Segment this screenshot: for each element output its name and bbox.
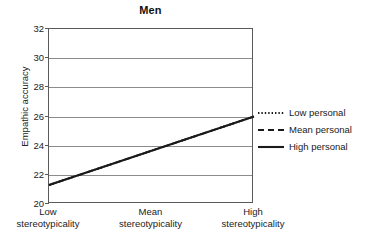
chart-figure: Men Empathic accuracy 20222426283032 Low… bbox=[0, 0, 370, 247]
x-axis-tick-label: Lowstereotypicality bbox=[3, 206, 93, 229]
x-axis-tick-labels: LowstereotypicalityMeanstereotypicalityH… bbox=[48, 206, 253, 242]
x-axis-tick-label-line1: Low bbox=[3, 206, 93, 218]
legend-item[interactable]: Mean personal bbox=[258, 121, 370, 138]
chart-title: Men bbox=[48, 4, 253, 16]
legend-swatch-solid-icon bbox=[258, 142, 284, 152]
legend-swatch-dashed-icon bbox=[258, 125, 284, 135]
legend-item[interactable]: High personal bbox=[258, 138, 370, 155]
y-axis-title: Empathic accuracy bbox=[19, 27, 30, 187]
legend-swatch-dotted-icon bbox=[258, 108, 284, 118]
x-axis-tick-label-line2: stereotypicality bbox=[3, 218, 93, 230]
y-axis-tick-label: 28 bbox=[4, 81, 44, 92]
x-axis-tick-label-line1: High bbox=[208, 206, 298, 218]
y-axis-tick-label: 22 bbox=[4, 168, 44, 179]
series-line bbox=[49, 117, 254, 186]
legend-label: High personal bbox=[289, 141, 348, 152]
y-axis-tick-label: 32 bbox=[4, 23, 44, 34]
y-axis-tick-label: 26 bbox=[4, 110, 44, 121]
legend-label: Mean personal bbox=[289, 124, 352, 135]
data-series-group bbox=[49, 29, 254, 204]
x-axis-tick-label-line2: stereotypicality bbox=[106, 218, 196, 230]
chart-legend: Low personalMean personalHigh personal bbox=[258, 104, 370, 155]
y-axis-tick-label: 24 bbox=[4, 139, 44, 150]
x-axis-tick-label: Meanstereotypicality bbox=[106, 206, 196, 229]
x-axis-tick-label-line2: stereotypicality bbox=[208, 218, 298, 230]
y-axis-tick-label: 30 bbox=[4, 52, 44, 63]
plot-area bbox=[48, 28, 253, 203]
legend-item[interactable]: Low personal bbox=[258, 104, 370, 121]
x-axis-tick-label: Highstereotypicality bbox=[208, 206, 298, 229]
x-axis-tick-label-line1: Mean bbox=[106, 206, 196, 218]
legend-label: Low personal bbox=[289, 107, 346, 118]
